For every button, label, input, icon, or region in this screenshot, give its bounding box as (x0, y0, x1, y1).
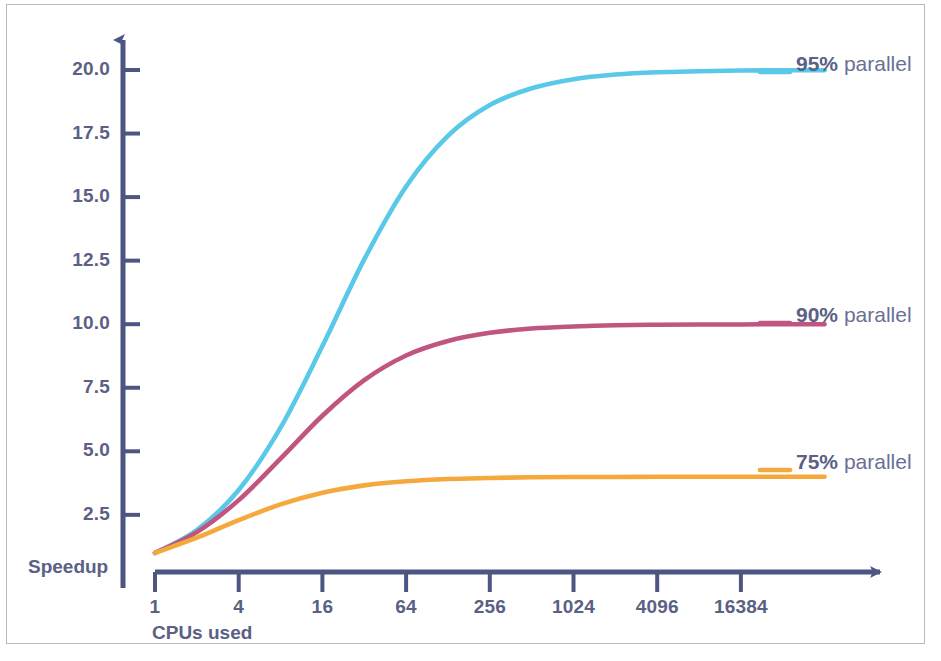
legend-line-swatches (760, 72, 790, 470)
plot-canvas (0, 0, 941, 661)
y-axis-tick-label: 15.0 (20, 185, 110, 207)
series-curve (155, 477, 825, 553)
y-axis-ticks (123, 70, 140, 515)
y-axis-tick-label: 10.0 (20, 312, 110, 334)
x-axis-ticks (155, 572, 741, 592)
y-axis-title: Speedup (28, 556, 108, 578)
series-label-90-parallel: 90% parallel (796, 303, 912, 327)
series-90-percent: 90% (796, 303, 838, 326)
y-axis-tick-label: 17.5 (20, 122, 110, 144)
x-axis-tick-label: 16384 (681, 596, 801, 618)
series-label-95-parallel: 95% parallel (796, 52, 912, 76)
series-90-word: parallel (844, 303, 912, 326)
y-axis-tick-label: 7.5 (20, 376, 110, 398)
y-axis-tick-label: 5.0 (20, 439, 110, 461)
series-95-word: parallel (844, 52, 912, 75)
x-axis-title: CPUs used (152, 622, 252, 644)
series-curve (155, 70, 825, 553)
y-axis-tick-label: 12.5 (20, 249, 110, 271)
series-75-word: parallel (844, 450, 912, 473)
series-label-75-parallel: 75% parallel (796, 450, 912, 474)
series-75-percent: 75% (796, 450, 838, 473)
y-axis-tick-label: 2.5 (20, 503, 110, 525)
chart-figure: 2.55.07.510.012.515.017.520.0 1416642561… (0, 0, 941, 661)
series-curves (155, 70, 825, 553)
series-95-percent: 95% (796, 52, 838, 75)
y-axis-tick-label: 20.0 (20, 58, 110, 80)
series-curve (155, 324, 825, 553)
